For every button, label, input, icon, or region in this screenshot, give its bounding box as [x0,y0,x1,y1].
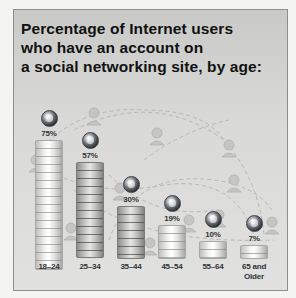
bar-45-54: 19% [158,195,186,259]
title-line-3: a social networking site, by age: [21,57,289,76]
category-label: 65 and Older [234,262,274,282]
globe-icon [82,132,99,149]
bar-stack [117,206,145,259]
globe-icon [246,215,263,232]
category-label: 55–64 [193,262,233,272]
bar-stack [35,140,63,270]
value-label: 10% [205,230,220,239]
category-label: 25–34 [70,262,110,272]
value-label: 19% [164,214,179,223]
value-label: 57% [82,151,97,160]
bar-25-34: 57% [76,132,104,258]
chart-title: Percentage of Internet users who have an… [21,19,289,76]
category-label: 35–44 [111,262,151,272]
bar-35-44: 30% [117,176,145,259]
value-label: 75% [41,129,56,138]
value-label: 7% [248,234,259,243]
bar-stack [76,162,104,258]
category-label: 45–54 [152,262,192,272]
title-line-2: who have an account on [21,38,289,57]
value-label: 30% [123,195,138,204]
chart-panel: Percentage of Internet users who have an… [13,9,288,291]
bar-65-older: 7% [240,215,268,259]
bar-stack [199,241,227,259]
bar-stack [158,225,186,259]
bar-stack [240,245,268,259]
category-label: 18–24 [29,262,69,272]
globe-icon [123,176,140,193]
globe-icon [164,195,181,212]
globe-icon [205,211,222,228]
bar-18-24: 75% [35,110,63,270]
title-line-1: Percentage of Internet users [21,19,289,38]
globe-icon [41,110,58,127]
bar-55-64: 10% [199,211,227,259]
